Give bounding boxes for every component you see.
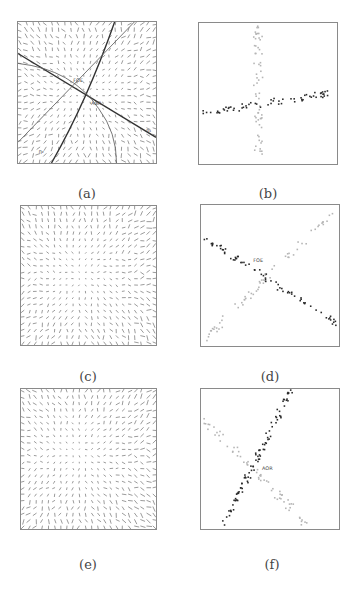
panel-e — [20, 388, 157, 530]
panel-c — [20, 205, 157, 346]
dark-points-horizontal — [202, 90, 328, 114]
annotation-label: η₂ — [39, 148, 44, 155]
panel-f: AOR — [200, 388, 340, 530]
light-points-falling — [203, 418, 307, 526]
annotation-label: η₁ — [146, 127, 151, 134]
panel-d: FOE — [200, 204, 340, 347]
panel-e-plot — [21, 389, 156, 529]
light-points-vertical — [253, 25, 263, 154]
annotation-label: FOE — [73, 77, 83, 83]
panel-c-plot — [21, 206, 156, 345]
caption-e: (e) — [79, 557, 97, 572]
light-points-rising — [206, 213, 333, 342]
panel-b — [198, 22, 338, 165]
caption-d: (d) — [261, 369, 279, 384]
caption-c: (c) — [79, 369, 96, 384]
panel-d-plot: FOE — [201, 205, 339, 346]
caption-a: (a) — [78, 186, 96, 201]
panel-a-plot: FOEAORη₁η₂ — [18, 22, 156, 163]
caption-f: (f) — [265, 557, 280, 572]
dark-points-falling — [204, 238, 337, 326]
annotation-label: AOR — [91, 100, 102, 106]
flow-needles — [21, 389, 156, 529]
annotation-label: AOR — [262, 465, 273, 471]
caption-b: (b) — [259, 186, 277, 201]
annotation-label: FOE — [253, 257, 263, 263]
dark-points-rising — [222, 389, 293, 525]
panel-f-plot: AOR — [201, 389, 339, 529]
panel-b-plot — [199, 23, 337, 164]
panel-a: FOEAORη₁η₂ — [17, 21, 157, 164]
flow-needles — [21, 206, 156, 345]
